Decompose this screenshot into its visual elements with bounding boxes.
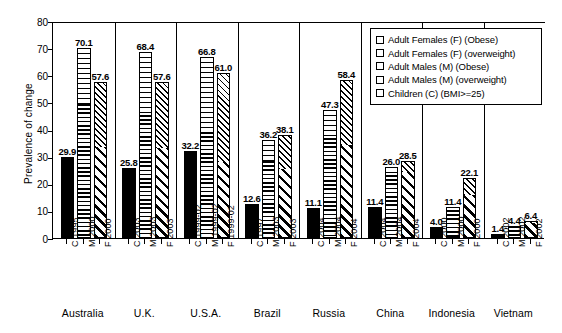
x-axis-tick-label: C 2003	[132, 217, 142, 247]
x-axis-tick-mark	[390, 239, 391, 244]
legend-item: Adult Males (M) (overweight)	[376, 73, 537, 86]
x-axis-tick-mark	[144, 239, 145, 244]
bar-segment-obese	[218, 73, 230, 163]
x-axis-tick-mark	[128, 239, 129, 244]
bar	[94, 82, 108, 238]
x-axis-tick-label: F 1999-02	[226, 205, 236, 247]
x-axis-tick-label: C 2004	[316, 217, 326, 247]
x-axis-tick-mark	[312, 239, 313, 244]
bar-segment-obese	[95, 82, 107, 147]
bar	[155, 82, 169, 238]
y-axis-tick-mark	[48, 212, 53, 213]
y-axis-tick-mark	[48, 239, 53, 240]
group-separator	[176, 22, 177, 238]
x-axis-tick-label: M 2004	[394, 216, 404, 247]
legend-item: Adult Females (F) (Obese)	[376, 33, 537, 46]
x-axis-tick-label: M 2002	[517, 216, 527, 247]
legend-swatch-icon	[376, 49, 384, 57]
legend-item-label: Adult Females (F) (Obese)	[388, 34, 498, 45]
y-axis-tick-label: 10	[37, 206, 48, 217]
group-separator	[115, 22, 116, 238]
y-axis-tick-mark	[48, 185, 53, 186]
x-axis-tick-label: C 2002	[501, 217, 511, 247]
x-axis-tick-mark	[468, 239, 469, 244]
x-axis-tick-label: F 2003	[165, 218, 175, 247]
bar-segment-obese	[140, 52, 152, 114]
y-axis-tick-mark	[48, 158, 53, 159]
group-separator	[238, 22, 239, 238]
x-axis-tick-label: C 1997	[255, 217, 265, 247]
legend-item-label: Adult Males (M) (Obese)	[388, 61, 489, 72]
legend-swatch-icon	[376, 89, 384, 97]
x-axis-tick-mark	[251, 239, 252, 244]
bar-value-label: 57.6	[148, 71, 176, 82]
x-axis-tick-mark	[206, 239, 207, 244]
x-axis-tick-label: M 2000	[87, 216, 97, 247]
bar-chart: Prevalence of change 80706050403020100 2…	[0, 0, 562, 333]
x-axis-tick-label: F 2004	[411, 218, 421, 247]
y-axis-tick-labels: 80706050403020100	[22, 16, 48, 245]
y-axis-tick-label: 70	[37, 44, 48, 55]
legend-item: Adult Males (M) (Obese)	[376, 60, 537, 73]
x-axis-tick-label: M 2004	[333, 216, 343, 247]
x-axis-tick-mark	[374, 239, 375, 244]
bar-segment-obese	[341, 80, 353, 145]
x-axis-tick-mark	[530, 239, 531, 244]
x-axis-tick-mark	[513, 239, 514, 244]
y-axis-tick-mark	[48, 131, 53, 132]
x-axis-tick-label: M 2000	[456, 216, 466, 247]
chart-legend: Adult Females (F) (Obese)Adult Females (…	[370, 28, 542, 105]
bar-value-label: 22.1	[456, 167, 484, 178]
bar-segment-obese	[447, 207, 459, 210]
legend-swatch-icon	[376, 76, 384, 84]
legend-item-label: Adult Females (F) (overweight)	[388, 48, 515, 59]
y-axis-tick-mark	[48, 103, 53, 104]
bar	[340, 80, 354, 238]
bar-value-label: 38.1	[271, 124, 299, 135]
x-axis-tick-mark	[497, 239, 498, 244]
bar-value-label: 58.4	[333, 69, 361, 80]
bar-segment-obese	[324, 110, 336, 139]
bar-segment-obese	[386, 167, 398, 175]
legend-swatch-icon	[376, 36, 384, 44]
plot-top-rule	[53, 22, 545, 23]
y-axis-tick-label: 30	[37, 152, 48, 163]
bar-segment-obese	[263, 140, 275, 162]
country-label: Vietnam	[475, 307, 553, 319]
x-axis-tick-label: F 2004	[349, 218, 359, 247]
x-axis-tick-mark	[407, 239, 408, 244]
bar-segment-obese	[156, 82, 168, 148]
bar-value-label: 68.4	[132, 41, 160, 52]
x-axis-tick-mark	[435, 239, 436, 244]
bar-value-label: 57.6	[87, 71, 115, 82]
x-axis-tick-label: F 2003	[288, 218, 298, 247]
y-axis-tick-label: 80	[37, 17, 48, 28]
x-axis-tick-mark	[452, 239, 453, 244]
x-axis-tick-label: C 1995	[70, 217, 80, 247]
x-axis-tick-label: C 1999-02	[193, 204, 203, 247]
x-axis-tick-mark	[284, 239, 285, 244]
bar-value-label: 70.1	[70, 37, 98, 48]
y-axis-tick-mark	[48, 76, 53, 77]
legend-item: Children (C) (BMI>=25)	[376, 87, 537, 100]
x-axis-tick-label: F 2000	[103, 218, 113, 247]
x-axis-tick-label: F 2000	[472, 218, 482, 247]
x-axis-tick-mark	[161, 239, 162, 244]
y-axis-tick-label: 40	[37, 125, 48, 136]
bar-segment-obese	[464, 178, 476, 195]
x-axis-tick-label: M 2003	[148, 216, 158, 247]
x-axis-tick-mark	[345, 239, 346, 244]
legend-swatch-icon	[376, 62, 384, 70]
y-axis-tick-label: 20	[37, 179, 48, 190]
x-axis-tick-mark	[329, 239, 330, 244]
bar-value-label: 66.8	[193, 46, 221, 57]
x-axis-tick-label: C 2004	[378, 217, 388, 247]
y-axis-tick-mark	[48, 49, 53, 50]
x-axis-tick-label: M 2003	[271, 216, 281, 247]
bar-value-label: 61.0	[210, 62, 238, 73]
bar-value-label: 28.5	[394, 150, 422, 161]
legend-item: Adult Females (F) (overweight)	[376, 46, 537, 59]
x-axis-tick-mark	[189, 239, 190, 244]
legend-item-label: Adult Males (M) (overweight)	[388, 74, 507, 85]
x-axis-tick-mark	[222, 239, 223, 244]
